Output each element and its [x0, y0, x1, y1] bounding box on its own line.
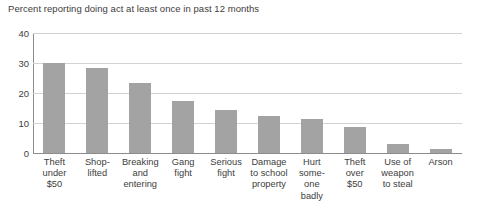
bar	[86, 68, 108, 154]
x-tick-label-line: Hurt	[290, 157, 333, 168]
x-tick-label: Shop-lifted	[76, 157, 119, 179]
bar	[43, 63, 65, 153]
x-axis-category-labels: Theftunder$50Shop-liftedBreakingandenter…	[33, 157, 462, 215]
bar	[387, 144, 409, 153]
x-tick-label-line: Arson	[419, 157, 462, 168]
bar-chart: Percent reporting doing act at least onc…	[0, 0, 477, 216]
gridline-0	[33, 153, 462, 154]
x-tick-label: Breakingandentering	[119, 157, 162, 191]
x-tick-label-line: Breaking	[119, 157, 162, 168]
x-tick-label: Theftover$50	[333, 157, 376, 191]
bar-slot	[205, 33, 248, 153]
x-tick-label-line: and	[119, 168, 162, 179]
bar-slot	[162, 33, 205, 153]
bar-slot	[419, 33, 462, 153]
bar-slot	[248, 33, 291, 153]
x-tick-label-line: weapon	[376, 168, 419, 179]
y-tick-label-10: 10	[3, 119, 29, 129]
x-tick-label-line: Gang	[162, 157, 205, 168]
y-axis-tick-labels: 010203040	[0, 0, 29, 216]
chart-title: Percent reporting doing act at least onc…	[8, 3, 259, 14]
x-tick-label-line: Use of	[376, 157, 419, 168]
y-tick-label-40: 40	[3, 29, 29, 39]
bar-slot	[33, 33, 76, 153]
x-tick-label-line: Theft	[333, 157, 376, 168]
bar	[301, 119, 323, 154]
x-tick-label-line: $50	[33, 179, 76, 190]
x-tick-label: Hurtsome-onebadly	[290, 157, 333, 202]
bar	[258, 116, 280, 154]
x-tick-label: Damageto schoolproperty	[248, 157, 291, 191]
bar	[129, 83, 151, 154]
x-tick-label-line: property	[248, 179, 291, 190]
bar	[172, 101, 194, 154]
bar-slot	[290, 33, 333, 153]
x-tick-label-line: one	[290, 179, 333, 190]
x-tick-label: Gangfight	[162, 157, 205, 179]
bars-layer	[33, 33, 462, 153]
x-tick-label-line: fight	[205, 168, 248, 179]
x-tick-label: Arson	[419, 157, 462, 168]
x-tick-label-line: badly	[290, 191, 333, 202]
x-tick-label-line: lifted	[76, 168, 119, 179]
x-tick-label-line: Serious	[205, 157, 248, 168]
x-tick-label-line: to school	[248, 168, 291, 179]
y-tick-label-0: 0	[3, 149, 29, 159]
x-tick-label-line: Theft	[33, 157, 76, 168]
x-tick-label-line: Shop-	[76, 157, 119, 168]
bar	[215, 110, 237, 154]
bar-slot	[119, 33, 162, 153]
y-tick-label-30: 30	[3, 59, 29, 69]
bar	[344, 127, 366, 153]
bar-slot	[333, 33, 376, 153]
bar	[430, 149, 452, 154]
x-tick-label-line: fight	[162, 168, 205, 179]
x-tick-label-line: $50	[333, 179, 376, 190]
x-tick-label: Use ofweaponto steal	[376, 157, 419, 191]
x-tick-label-line: over	[333, 168, 376, 179]
bar-slot	[376, 33, 419, 153]
x-tick-label-line: Damage	[248, 157, 291, 168]
x-tick-label-line: under	[33, 168, 76, 179]
bar-slot	[76, 33, 119, 153]
y-tick-label-20: 20	[3, 89, 29, 99]
x-tick-label: Theftunder$50	[33, 157, 76, 191]
x-tick-label: Seriousfight	[205, 157, 248, 179]
x-tick-label-line: some-	[290, 168, 333, 179]
x-tick-label-line: to steal	[376, 179, 419, 190]
x-tick-label-line: entering	[119, 179, 162, 190]
